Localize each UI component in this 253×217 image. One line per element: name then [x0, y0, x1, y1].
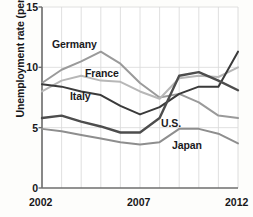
y-tick-10: 10 — [14, 62, 38, 73]
series-label-france: France — [85, 67, 119, 79]
y-tick-5: 5 — [14, 123, 38, 134]
series-label-germany: Germany — [52, 38, 97, 50]
series-label-italy: Italy — [70, 90, 91, 102]
y-axis-tick-labels: 15 10 5 0 — [10, 0, 38, 217]
x-tick-2002: 2002 — [29, 197, 52, 208]
series-label-us: U.S. — [161, 117, 181, 129]
series-label-japan: Japan — [172, 139, 202, 151]
x-tick-2007: 2007 — [127, 197, 150, 208]
unemployment-rate-line-chart: Unemployment rate (percent) 15 10 5 0 20… — [0, 0, 253, 217]
y-tick-15: 15 — [14, 2, 38, 13]
x-tick-2012: 2012 — [225, 197, 248, 208]
y-tick-0: 0 — [14, 183, 38, 194]
